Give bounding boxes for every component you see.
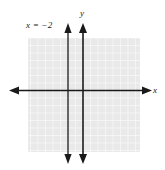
y-axis-bottom-arrowhead	[79, 154, 87, 164]
x-axis-label: x	[153, 86, 157, 95]
coordinate-plane-figure	[0, 0, 165, 170]
x-axis-right-arrowhead	[142, 87, 152, 95]
y-axis-label: y	[80, 9, 84, 18]
grid-area	[28, 38, 140, 152]
vertical-line-top-arrowhead	[64, 23, 71, 33]
equation-label: x = −2	[26, 21, 52, 30]
vertical-line-bottom-arrowhead	[64, 154, 71, 164]
x-axis-left-arrowhead	[9, 87, 19, 95]
y-axis-top-arrowhead	[79, 23, 87, 33]
